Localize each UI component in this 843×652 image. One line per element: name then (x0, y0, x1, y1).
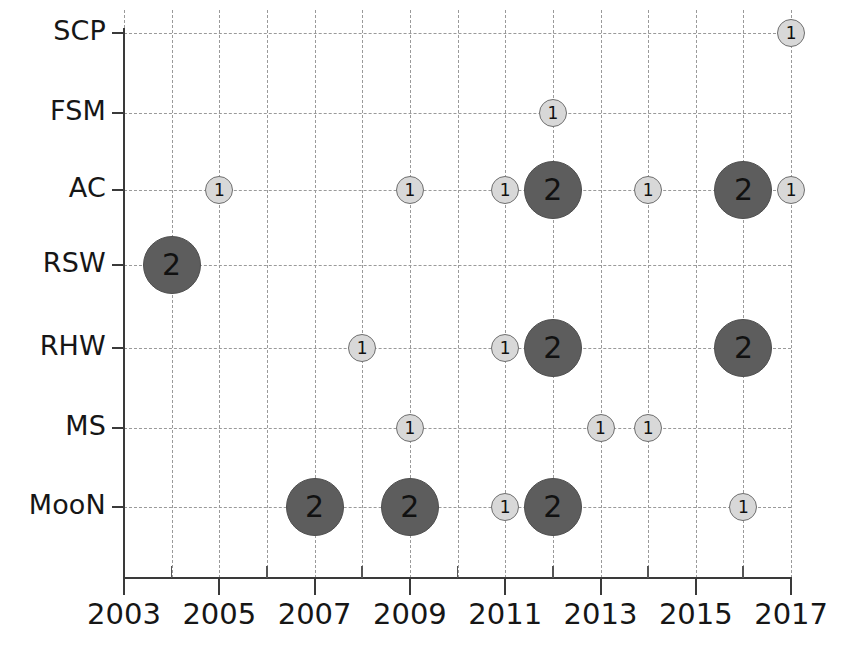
x-axis-label-2017: 2017 (754, 597, 828, 631)
x-axis-major-tick (790, 578, 792, 595)
y-axis-label-moon: MooN (29, 489, 106, 520)
x-axis-minor-tick (361, 566, 363, 578)
y-axis-tick (112, 189, 125, 191)
bubble-ac-2005[interactable]: 1 (205, 176, 233, 204)
plot-area (124, 10, 791, 578)
horizontal-gridline (124, 507, 791, 508)
vertical-gridline (362, 10, 363, 578)
x-axis-major-tick (600, 578, 602, 595)
vertical-gridline (267, 10, 268, 578)
x-axis-label-2003: 2003 (87, 597, 161, 631)
vertical-gridline (648, 10, 649, 578)
x-axis-minor-tick (457, 566, 459, 578)
bubble-rhw-2016[interactable]: 2 (714, 319, 772, 377)
y-axis-tick (112, 347, 125, 349)
horizontal-gridline (124, 113, 791, 114)
x-axis-label-2009: 2009 (373, 597, 447, 631)
y-axis-label-rhw: RHW (40, 330, 106, 361)
x-axis-major-tick (314, 578, 316, 595)
bubble-ac-2012[interactable]: 2 (524, 161, 582, 219)
bubble-scp-2017[interactable]: 1 (777, 19, 805, 47)
bubble-fsm-2012[interactable]: 1 (539, 99, 567, 127)
x-axis-major-tick (218, 578, 220, 595)
bubble-moon-2011[interactable]: 1 (491, 493, 519, 521)
bubble-rhw-2011[interactable]: 1 (491, 334, 519, 362)
bubble-moon-2007[interactable]: 2 (286, 478, 344, 536)
y-axis-tick (112, 506, 125, 508)
y-axis-label-ac: AC (69, 172, 106, 203)
x-axis-minor-tick (647, 566, 649, 578)
bubble-ac-2011[interactable]: 1 (491, 176, 519, 204)
bubble-rhw-2008[interactable]: 1 (348, 334, 376, 362)
y-axis-labels: SCPFSMACRSWRHWMSMooN (0, 0, 106, 652)
bubble-ms-2009[interactable]: 1 (396, 414, 424, 442)
vertical-gridline (172, 10, 173, 578)
bubble-chart: SCPFSMACRSWRHWMSMooN 2003200520072009201… (0, 0, 843, 652)
bubble-ac-2014[interactable]: 1 (634, 176, 662, 204)
bubble-moon-2009[interactable]: 2 (381, 478, 439, 536)
horizontal-gridline (124, 265, 791, 266)
bubble-moon-2012[interactable]: 2 (524, 478, 582, 536)
x-axis-major-tick (123, 578, 125, 595)
y-axis-line (123, 28, 125, 580)
y-axis-tick (112, 427, 125, 429)
horizontal-gridline (124, 428, 791, 429)
x-axis-major-tick (695, 578, 697, 595)
x-axis-minor-tick (266, 566, 268, 578)
y-axis-tick (112, 112, 125, 114)
bubble-ac-2009[interactable]: 1 (396, 176, 424, 204)
horizontal-gridline (124, 348, 791, 349)
bubble-ac-2017[interactable]: 1 (777, 176, 805, 204)
x-axis-label-2011: 2011 (468, 597, 542, 631)
vertical-gridline (219, 10, 220, 578)
horizontal-gridline (124, 33, 791, 34)
x-axis-label-2015: 2015 (659, 597, 733, 631)
x-axis-major-tick (504, 578, 506, 595)
x-axis-label-2013: 2013 (564, 597, 638, 631)
y-axis-tick (112, 264, 125, 266)
bubble-ac-2016[interactable]: 2 (714, 161, 772, 219)
vertical-gridline (601, 10, 602, 578)
x-axis-minor-tick (552, 566, 554, 578)
y-axis-label-fsm: FSM (50, 95, 106, 126)
x-axis-minor-tick (171, 566, 173, 578)
y-axis-label-scp: SCP (53, 15, 106, 46)
x-axis-label-2007: 2007 (278, 597, 352, 631)
x-axis-label-2005: 2005 (182, 597, 256, 631)
bubble-rsw-2004[interactable]: 2 (143, 236, 201, 294)
bubble-ms-2013[interactable]: 1 (587, 414, 615, 442)
x-axis-minor-tick (742, 566, 744, 578)
bubble-moon-2016[interactable]: 1 (729, 493, 757, 521)
bubble-rhw-2012[interactable]: 2 (524, 319, 582, 377)
y-axis-label-rsw: RSW (43, 247, 106, 278)
x-axis-major-tick (409, 578, 411, 595)
vertical-gridline (458, 10, 459, 578)
vertical-gridline (791, 10, 792, 578)
y-axis-label-ms: MS (65, 410, 106, 441)
y-axis-tick (112, 32, 125, 34)
vertical-gridline (696, 10, 697, 578)
bubble-ms-2014[interactable]: 1 (634, 414, 662, 442)
